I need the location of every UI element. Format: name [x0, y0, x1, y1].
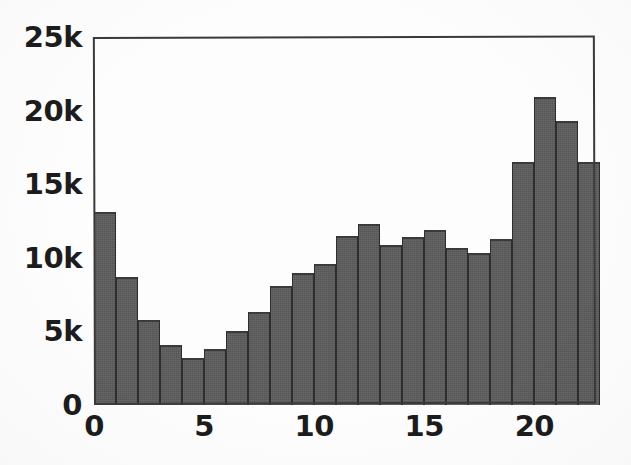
histogram-bar: [116, 277, 138, 405]
histogram-bar: [402, 237, 424, 405]
histogram-bar: [248, 312, 270, 405]
histogram-bar: [226, 331, 248, 405]
histogram-bar: [182, 358, 204, 405]
histogram-bar: [512, 162, 534, 405]
y-axis-tick-label: 10k: [24, 243, 82, 272]
x-axis-tick-labels: 05101520: [0, 410, 631, 465]
histogram-bar: [380, 245, 402, 405]
x-axis-tick-label: 10: [294, 412, 333, 441]
bar-series: [94, 37, 596, 405]
y-axis-tick-label: 25k: [24, 23, 82, 52]
histogram-bar: [160, 345, 182, 405]
x-axis-tick-label: 0: [84, 412, 104, 441]
x-axis-tick-label: 20: [515, 412, 554, 441]
y-axis-tick-label: 20k: [24, 96, 82, 125]
histogram-bar: [94, 212, 116, 405]
histogram-bar: [138, 320, 160, 405]
histogram-bar: [270, 286, 292, 405]
y-axis-tick-label: 5k: [44, 317, 82, 346]
histogram-bar: [578, 162, 600, 405]
histogram-bar: [204, 349, 226, 405]
histogram-bar: [292, 273, 314, 405]
histogram-bar: [468, 253, 490, 405]
histogram-figure: 05k10k15k20k25k 05101520: [0, 0, 631, 465]
x-axis-tick-label: 15: [405, 412, 444, 441]
histogram-bar: [556, 121, 578, 405]
histogram-bar: [534, 97, 556, 405]
plot-area: [94, 37, 596, 405]
y-axis-tick-labels: 05k10k15k20k25k: [0, 0, 86, 465]
histogram-bar: [314, 264, 336, 405]
histogram-bar: [336, 236, 358, 405]
y-axis-tick-label: 15k: [24, 170, 82, 199]
histogram-bar: [424, 230, 446, 405]
x-axis-tick-label: 5: [194, 412, 214, 441]
histogram-bar: [490, 239, 512, 405]
histogram-bar: [358, 224, 380, 405]
histogram-bar: [446, 248, 468, 406]
